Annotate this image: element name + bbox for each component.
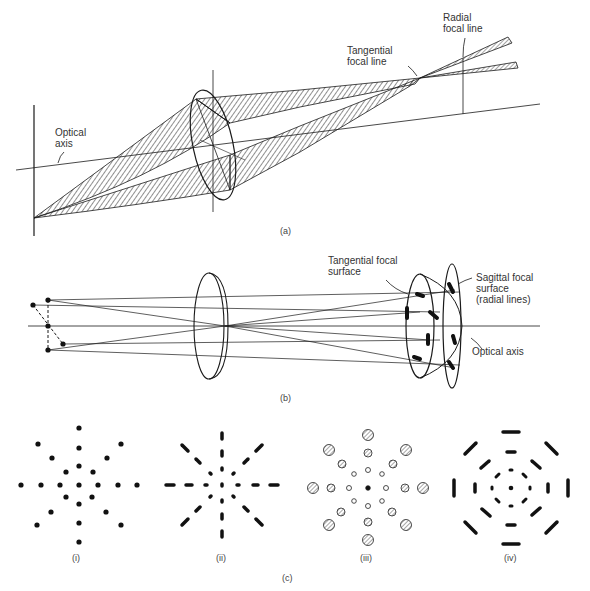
label-tangential-focal-surface: Tangential focal surface bbox=[328, 255, 398, 277]
caption-c: (c) bbox=[282, 573, 293, 583]
panel-c bbox=[18, 425, 568, 545]
panel-b bbox=[28, 264, 540, 388]
label-tangential-focal-line: Tangential focal line bbox=[347, 45, 393, 67]
caption-c-iii: (iii) bbox=[360, 553, 372, 563]
label-optical-axis-b: Optical axis bbox=[472, 346, 524, 357]
diverging-bundle-lower bbox=[420, 62, 518, 78]
spot-pattern-iii bbox=[308, 430, 429, 546]
caption-c-i: (i) bbox=[72, 553, 80, 563]
caption-c-iv: (iv) bbox=[504, 553, 517, 563]
label-optical-axis-a: Optical axis bbox=[55, 127, 86, 149]
spot-pattern-ii bbox=[166, 433, 278, 537]
spot-pattern-i bbox=[18, 425, 139, 544]
caption-b: (b) bbox=[280, 393, 291, 403]
label-sagittal-focal-surface: Sagittal focal surface (radial lines) bbox=[476, 272, 533, 305]
label-radial-focal-line: Radial focal line bbox=[443, 12, 482, 34]
tangential-leader bbox=[408, 66, 417, 76]
caption-a: (a) bbox=[280, 226, 291, 236]
spot-pattern-iv bbox=[454, 432, 568, 544]
caption-c-ii: (ii) bbox=[216, 553, 226, 563]
radial-leader bbox=[463, 38, 465, 57]
panel-a bbox=[16, 37, 540, 236]
optical-axis-leader bbox=[58, 152, 64, 163]
